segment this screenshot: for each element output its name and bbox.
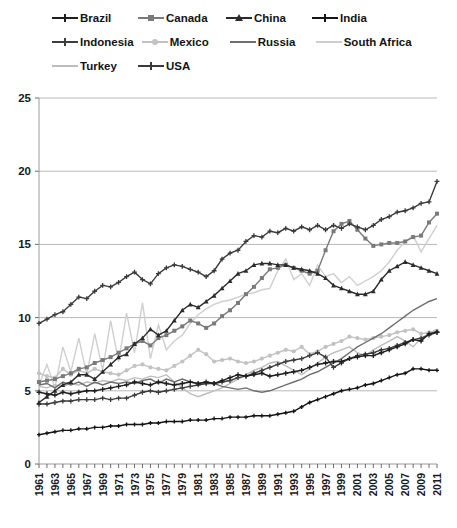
legend-marker-icon xyxy=(138,60,164,72)
data-point-marker xyxy=(315,362,320,367)
data-point-marker xyxy=(387,241,391,245)
data-point-marker xyxy=(324,248,328,252)
data-point-marker xyxy=(188,354,192,358)
x-tick-label: 1969 xyxy=(97,473,109,497)
data-point-marker xyxy=(108,385,113,390)
legend-item-india[interactable]: India xyxy=(312,12,367,24)
data-point-marker xyxy=(260,414,264,418)
legend-marker-icon xyxy=(230,36,256,48)
data-point-marker xyxy=(164,333,168,337)
x-tick-label: 1991 xyxy=(272,473,284,497)
legend-item-china[interactable]: China xyxy=(226,12,304,24)
legend-item-russia[interactable]: Russia xyxy=(230,36,308,48)
data-point-marker xyxy=(419,332,423,336)
legend-label: USA xyxy=(166,60,190,72)
data-point-marker xyxy=(180,324,184,328)
data-point-marker xyxy=(260,356,264,360)
x-tick-label: 1963 xyxy=(49,473,61,497)
x-tick-label: 2007 xyxy=(399,473,411,497)
data-point-marker xyxy=(45,374,49,378)
legend-item-usa[interactable]: USA xyxy=(138,60,218,72)
data-point-marker xyxy=(93,361,97,365)
data-point-marker xyxy=(220,314,224,318)
data-point-marker xyxy=(212,359,216,363)
data-point-marker xyxy=(244,292,248,296)
data-point-marker xyxy=(339,222,343,226)
data-point-marker xyxy=(180,381,185,386)
data-point-marker xyxy=(93,367,97,371)
data-point-marker xyxy=(172,420,176,424)
series-line xyxy=(39,332,437,395)
data-point-marker xyxy=(403,208,408,213)
data-point-marker xyxy=(332,229,336,233)
legend-item-south-africa[interactable]: South Africa xyxy=(316,36,412,48)
legend-row: TurkeyUSA xyxy=(0,54,457,78)
data-point-marker xyxy=(68,399,73,404)
data-point-marker xyxy=(419,234,423,238)
legend-item-indonesia[interactable]: Indonesia xyxy=(52,36,134,48)
legend-item-canada[interactable]: Canada xyxy=(138,12,218,24)
data-point-marker xyxy=(180,264,185,269)
data-point-marker xyxy=(403,329,407,333)
data-point-marker xyxy=(140,362,144,366)
data-point-marker xyxy=(156,421,160,425)
data-point-marker xyxy=(148,383,153,388)
legend-label: Turkey xyxy=(80,60,117,72)
chart-legend: BrazilCanadaChinaIndiaIndonesiaMexicoRus… xyxy=(0,6,457,84)
data-point-marker xyxy=(379,242,383,246)
legend-label: Russia xyxy=(258,36,296,48)
legend-item-turkey[interactable]: Turkey xyxy=(52,60,130,72)
data-point-marker xyxy=(172,329,176,333)
data-point-marker xyxy=(148,421,152,425)
data-point-marker xyxy=(76,397,81,402)
data-point-marker xyxy=(403,239,407,243)
legend-marker-icon xyxy=(316,36,342,48)
data-point-marker xyxy=(109,371,113,375)
legend-item-mexico[interactable]: Mexico xyxy=(142,36,222,48)
y-tick-label: 25 xyxy=(18,92,31,104)
x-tick-label: 1985 xyxy=(224,473,236,497)
data-point-marker xyxy=(101,358,105,362)
line-chart-svg: 0510152025196119631965196719691971197319… xyxy=(0,84,457,528)
data-point-marker xyxy=(84,388,89,393)
data-point-marker xyxy=(339,339,343,343)
data-point-marker xyxy=(188,319,192,323)
legend-marker-icon xyxy=(226,12,252,24)
data-point-marker xyxy=(172,262,177,267)
legend-item-brazil[interactable]: Brazil xyxy=(52,12,130,24)
data-point-marker xyxy=(268,414,272,418)
x-tick-label: 1981 xyxy=(192,473,204,497)
legend-marker-icon xyxy=(52,60,78,72)
data-point-marker xyxy=(212,417,216,421)
data-point-marker xyxy=(109,355,113,359)
data-point-marker xyxy=(85,427,89,431)
data-point-marker xyxy=(77,427,81,431)
legend-marker-icon xyxy=(312,12,338,24)
data-point-marker xyxy=(268,354,272,358)
data-point-marker xyxy=(387,376,391,380)
data-point-marker xyxy=(292,349,296,353)
data-point-marker xyxy=(172,364,176,368)
data-point-marker xyxy=(228,356,232,360)
data-point-marker xyxy=(188,302,193,307)
data-point-marker xyxy=(156,380,161,385)
data-point-marker xyxy=(164,381,169,386)
data-point-marker xyxy=(419,367,423,371)
data-point-marker xyxy=(284,348,288,352)
data-point-marker xyxy=(125,422,129,426)
data-point-marker xyxy=(188,384,193,389)
data-point-marker xyxy=(188,267,193,272)
data-point-marker xyxy=(148,388,153,393)
data-point-marker xyxy=(124,383,129,388)
data-point-marker xyxy=(276,351,280,355)
legend-label: Mexico xyxy=(170,36,209,48)
data-point-marker xyxy=(124,368,128,372)
data-point-marker xyxy=(93,425,97,429)
data-point-marker xyxy=(61,367,65,371)
data-point-marker xyxy=(101,425,105,429)
data-point-marker xyxy=(275,372,280,377)
data-point-marker xyxy=(332,392,336,396)
x-tick-label: 1983 xyxy=(208,473,220,497)
data-point-marker xyxy=(53,430,57,434)
data-point-marker xyxy=(236,359,240,363)
